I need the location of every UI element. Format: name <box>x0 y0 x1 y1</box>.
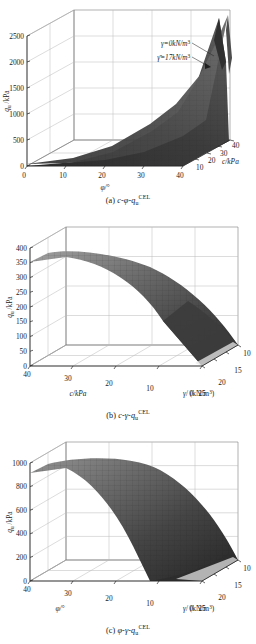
chart-c-x-axis: 40 30 20 10 0 φ/° <box>23 581 202 613</box>
chart-a-ztick-1500: 1500 <box>9 84 24 93</box>
chart-b-x-axis: 40 30 20 10 0 c/kPa <box>23 366 202 398</box>
chart-a-svg: 2500 2000 1500 1000 500 0 qu /kPa 0 10 <box>0 0 256 196</box>
chart-a-z-axis-label: qu /kPa <box>2 90 12 112</box>
chart-a-caption: (a) c-φ-quCEL <box>0 194 256 206</box>
chart-b-z-axis: 400 350 300 250 200 150 100 50 0 qu /kPa <box>5 244 33 371</box>
chart-c-ztick-1000: 1000 <box>12 459 27 468</box>
chart-a-z-axis: 2500 2000 1500 1000 500 0 qu /kPa <box>2 32 30 171</box>
chart-b-svg: 400 350 300 250 200 150 100 50 0 qu /kPa <box>0 215 256 411</box>
chart-b-xtick-40: 40 <box>23 370 31 379</box>
chart-a-caption-sup: CEL <box>139 194 151 200</box>
chart-a-caption-prefix: (a) <box>106 196 115 205</box>
chart-a-x-axis-label: φ/° <box>100 183 109 192</box>
chart-b-xtick-20: 20 <box>105 379 113 388</box>
panel-a: 2500 2000 1500 1000 500 0 qu /kPa 0 10 <box>0 0 256 215</box>
chart-a-caption-sub: u <box>136 200 139 206</box>
chart-b-ytick-10: 10 <box>243 349 251 358</box>
chart-b-ztick-150: 150 <box>16 317 27 326</box>
chart-c-caption-body: φ-γ-q <box>117 626 135 635</box>
chart-b-ztick-200: 200 <box>16 303 27 312</box>
chart-a-ytick-10: 10 <box>196 163 204 172</box>
chart-c-ztick-800: 800 <box>16 482 27 491</box>
chart-a-ztick-2500: 2500 <box>9 32 24 41</box>
chart-b-xtick-10: 10 <box>146 384 154 393</box>
chart-b-caption: (b) c-γ-quCEL <box>0 409 256 421</box>
chart-a-ztick-2000: 2000 <box>9 58 24 67</box>
chart-a-xtick-30: 30 <box>137 171 145 180</box>
chart-c-ztick-600: 600 <box>16 506 27 515</box>
chart-c-caption: (c) φ-γ-quCEL <box>0 624 256 636</box>
chart-c-ytick-10: 10 <box>243 564 251 573</box>
chart-a-annotations: γ=0kN/m3 γ̄=17kN/m3 <box>157 39 214 69</box>
chart-a-xtick-10: 10 <box>59 171 67 180</box>
chart-b-ytick-20: 20 <box>218 378 226 387</box>
chart-c-xtick-10: 10 <box>146 599 154 608</box>
chart-a-ztick-0: 0 <box>20 162 24 171</box>
chart-c-xtick-20: 20 <box>105 594 113 603</box>
chart-a-xtick-20: 20 <box>98 171 106 180</box>
chart-c-ztick-400: 400 <box>16 529 27 538</box>
chart-b-x-axis-label: c/kPa <box>70 389 87 398</box>
chart-c-caption-prefix: (c) <box>106 626 115 635</box>
chart-c-z-axis-label: qu /kPa <box>5 511 15 533</box>
chart-c-xtick-30: 30 <box>64 589 72 598</box>
chart-c-x-axis-label: φ/° <box>55 604 64 613</box>
chart-a-ytick-40: 40 <box>232 141 240 150</box>
chart-b-caption-sub: u <box>135 415 138 421</box>
chart-b-surface <box>30 251 238 366</box>
chart-b-z-axis-label: qu /kPa <box>5 296 15 318</box>
chart-c-ytick-15: 15 <box>234 581 242 590</box>
chart-b-ztick-50: 50 <box>20 347 28 356</box>
chart-b-ztick-400: 400 <box>16 244 27 253</box>
chart-b-ztick-350: 350 <box>16 258 27 267</box>
chart-c-svg: 1000 800 600 400 200 0 qu /kPa 40 30 20 <box>0 430 256 626</box>
chart-b-caption-prefix: (b) <box>106 411 116 420</box>
chart-c-ztick-200: 200 <box>16 553 27 562</box>
chart-a-annotation-gamma-zero: γ=0kN/m3 <box>161 39 190 48</box>
chart-b-y-axis-label: γ/ (kN/m3) <box>183 389 215 398</box>
chart-c-y-axis-label: γ/ (kN/m3) <box>183 604 215 613</box>
chart-a-x-axis: 0 10 20 30 40 φ/° <box>22 166 184 192</box>
panel-c: 1000 800 600 400 200 0 qu /kPa 40 30 20 <box>0 430 256 644</box>
chart-a-ztick-1000: 1000 <box>9 110 24 119</box>
chart-a-annotation-gamma-17: γ̄=17kN/m3 <box>157 53 190 62</box>
chart-a-ztick-500: 500 <box>13 136 24 145</box>
chart-b-ztick-300: 300 <box>16 273 27 282</box>
chart-b-ytick-15: 15 <box>234 366 242 375</box>
chart-b-xtick-30: 30 <box>64 374 72 383</box>
chart-c-caption-sub: u <box>135 630 138 636</box>
chart-c-ytick-20: 20 <box>218 593 226 602</box>
chart-c-z-axis: 1000 800 600 400 200 0 qu /kPa <box>5 459 33 586</box>
chart-b-caption-sup: CEL <box>138 409 150 415</box>
chart-b-ztick-250: 250 <box>16 288 27 297</box>
chart-a-caption-body: c-φ-q <box>117 196 135 205</box>
chart-a-xtick-40: 40 <box>176 171 184 180</box>
chart-b-ztick-100: 100 <box>16 332 27 341</box>
figure-container: 2500 2000 1500 1000 500 0 qu /kPa 0 10 <box>0 0 256 644</box>
chart-a-ytick-20: 20 <box>208 156 216 165</box>
panel-b: 400 350 300 250 200 150 100 50 0 qu /kPa <box>0 215 256 430</box>
chart-c-xtick-40: 40 <box>23 585 31 594</box>
chart-b-caption-body: c-γ-q <box>118 411 135 420</box>
chart-c-caption-sup: CEL <box>138 624 150 630</box>
chart-a-xtick-0: 0 <box>22 171 26 180</box>
chart-a-y-axis-label: c/kPa <box>222 157 239 166</box>
